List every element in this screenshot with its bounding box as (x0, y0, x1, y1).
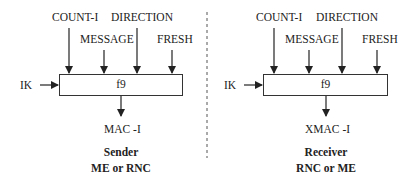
sender-output-mac-i: MAC -I (104, 124, 141, 136)
receiver-output-xmac-i: XMAC -I (305, 124, 350, 136)
receiver-entity: RNC or ME (276, 161, 376, 177)
sender-input-message: MESSAGE (80, 34, 134, 46)
receiver-key-ik: IK (224, 80, 236, 92)
receiver-input-fresh: FRESH (362, 34, 398, 46)
receiver-input-direction: DIRECTION (316, 12, 378, 24)
sender-role: Sender (71, 145, 171, 161)
receiver-function-label: f9 (264, 78, 387, 90)
sender-function-label: f9 (60, 78, 182, 90)
receiver-role: Receiver (276, 145, 376, 161)
receiver-input-count-i: COUNT-I (256, 12, 302, 24)
sender-input-fresh: FRESH (157, 34, 193, 46)
sender-f9-box: f9 (59, 74, 183, 96)
receiver-caption: Receiver RNC or ME (276, 145, 376, 176)
sender-entity: ME or RNC (71, 161, 171, 177)
receiver-f9-box: f9 (263, 74, 388, 96)
sender-input-direction: DIRECTION (111, 12, 173, 24)
sender-key-ik: IK (20, 80, 32, 92)
sender-caption: Sender ME or RNC (71, 145, 171, 176)
receiver-input-message: MESSAGE (285, 34, 339, 46)
sender-input-count-i: COUNT-I (52, 12, 98, 24)
